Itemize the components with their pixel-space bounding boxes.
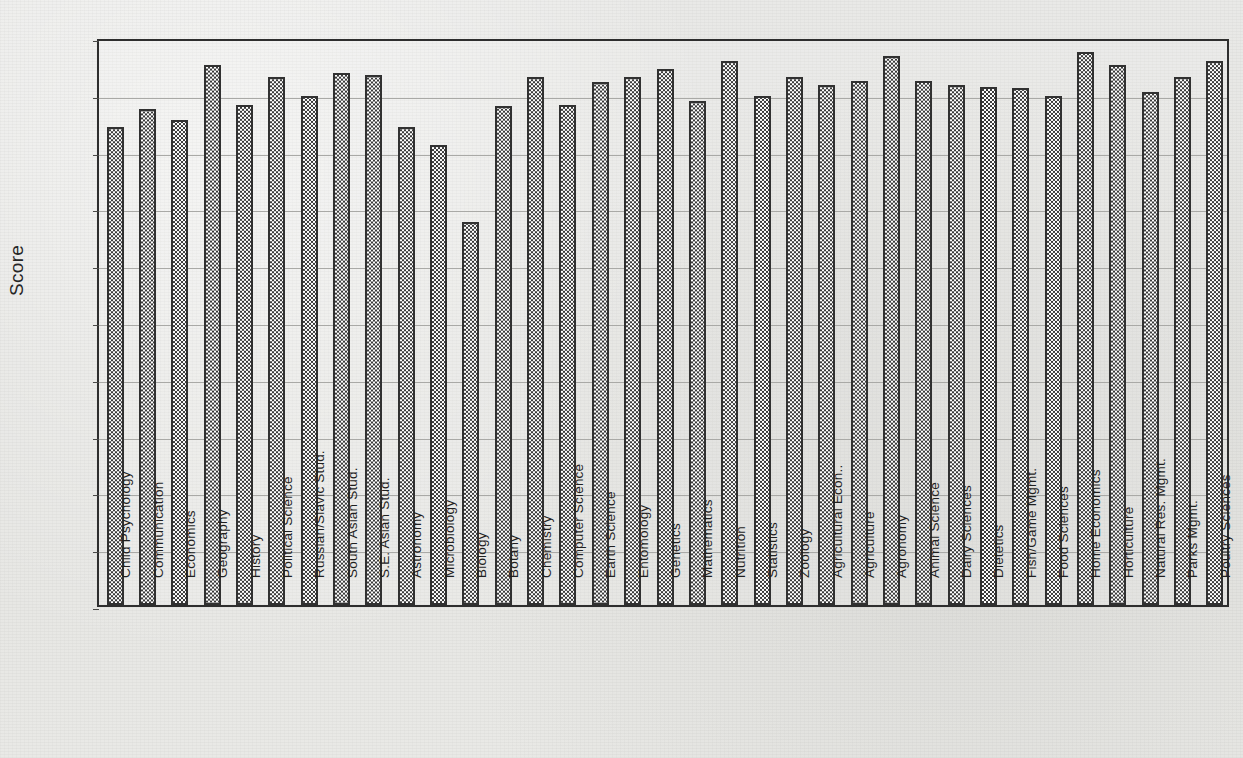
y-axis-tick bbox=[93, 98, 99, 99]
x-axis-tick-label: Russian/Slavic Stud. bbox=[312, 450, 327, 578]
y-axis-tick bbox=[93, 268, 99, 269]
x-axis-tick-label: Political Science bbox=[280, 476, 295, 578]
x-axis-tick-label: Natural Res. Mgmt. bbox=[1153, 458, 1168, 578]
x-axis-tick-label: Fish/Game Mgmt. bbox=[1024, 468, 1039, 578]
bar-chart: Score 5.004.504.003.503.002.502.001.501.… bbox=[0, 0, 1243, 758]
x-axis-tick-label: Home Economics bbox=[1088, 469, 1103, 578]
x-axis-tick-label: History bbox=[248, 535, 263, 578]
x-axis-tick-label: Microbiology bbox=[442, 500, 457, 578]
x-axis-tick-label: Biology bbox=[474, 532, 489, 578]
y-axis-tick bbox=[93, 382, 99, 383]
y-axis-tick bbox=[93, 495, 99, 496]
y-axis-tick bbox=[93, 325, 99, 326]
x-axis-tick-label: Animal Science bbox=[927, 482, 942, 578]
x-axis-tick-label: Astronomy bbox=[409, 512, 424, 578]
x-axis-tick-label: Parks Mgmt. bbox=[1185, 500, 1200, 578]
x-axis-tick-label: Botany bbox=[506, 535, 521, 578]
x-axis-tick-label: S.E. Asian Stud. bbox=[377, 477, 392, 578]
x-axis-tick-label: Poultry Sciences bbox=[1218, 474, 1233, 578]
y-axis-tick bbox=[93, 609, 99, 610]
bar bbox=[495, 106, 512, 605]
x-axis-tick-label: Statistics bbox=[765, 522, 780, 578]
x-axis-tick-label: Nutrition bbox=[733, 526, 748, 578]
y-axis-tick bbox=[93, 155, 99, 156]
x-axis-tick-label: Food Sciences bbox=[1056, 486, 1071, 578]
bar bbox=[721, 61, 738, 605]
x-axis-tick-label: Dairy Sciences bbox=[959, 485, 974, 578]
y-axis-tick bbox=[93, 41, 99, 42]
x-axis-tick-label: Agriculture bbox=[862, 511, 877, 578]
x-axis-tick-label: Entomology bbox=[636, 505, 651, 578]
x-axis-tick-label: Agricultural Econ.. bbox=[830, 465, 845, 578]
x-axis-tick-label: Child Psychology bbox=[118, 471, 133, 578]
x-axis-tick-label: Zoology bbox=[797, 529, 812, 578]
y-axis-tick bbox=[93, 552, 99, 553]
y-axis-tick bbox=[93, 439, 99, 440]
x-axis-tick-label: Chemistry bbox=[539, 515, 554, 578]
x-axis-tick-label: Genetics bbox=[668, 523, 683, 578]
y-axis-title: Score bbox=[6, 245, 28, 296]
x-axis-tick-label: Computer Science bbox=[571, 464, 586, 578]
x-axis-tick-label: Horticulture bbox=[1121, 507, 1136, 578]
bar bbox=[786, 77, 803, 605]
x-axis-tick-label: Economics bbox=[183, 510, 198, 578]
bar bbox=[236, 105, 253, 605]
x-axis-tick-label: Dietetics bbox=[991, 524, 1006, 578]
x-axis-tick-label: Earth Science bbox=[603, 491, 618, 578]
x-axis-tick-label: South Asian Stud. bbox=[345, 467, 360, 578]
y-axis-tick bbox=[93, 211, 99, 212]
x-axis-tick-label: Geography bbox=[215, 509, 230, 578]
x-axis-tick-label: Mathematics bbox=[700, 499, 715, 578]
x-axis-tick-label: Communication bbox=[151, 482, 166, 578]
x-axis-tick-label: Agronomy bbox=[894, 515, 909, 578]
